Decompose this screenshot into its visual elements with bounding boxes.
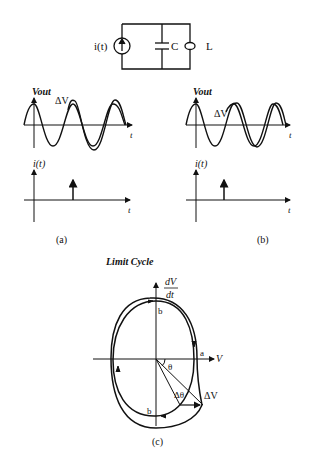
capacitor-label: C: [171, 40, 178, 52]
panel-b-caption: (b): [257, 234, 269, 246]
inductor-label: L: [206, 40, 213, 52]
panel-a-i-label: i(t): [33, 158, 46, 170]
panel-a-i-t-label: t: [128, 205, 131, 215]
panel-a-vout-plot: [24, 98, 132, 150]
panel-b-i-label: i(t): [195, 158, 208, 170]
delta-theta-label: Δθ: [174, 390, 184, 400]
point-a-label: a: [200, 348, 204, 358]
y-axis-denominator: dt: [166, 289, 174, 300]
delta-v-label: ΔV: [204, 390, 218, 401]
panel-b-vout-plot: [186, 98, 290, 148]
panel-a-current-plot: [24, 170, 130, 222]
panel-a-delta-v-label: ΔV: [55, 95, 69, 106]
point-b-bottom-label: b: [147, 406, 152, 416]
point-b-top-label: b: [158, 306, 163, 316]
figure-canvas: i(t) C L Vout ΔV t i(t) t (a) Vout ΔV t …: [0, 0, 310, 454]
panel-a-vout-label: Vout: [32, 86, 52, 97]
panel-b-vout-label: Vout: [193, 86, 213, 97]
panel-a-t-label: t: [130, 130, 133, 140]
limit-cycle-title: Limit Cycle: [105, 256, 154, 267]
panel-a-caption: (a): [56, 234, 67, 246]
theta-label: θ: [168, 362, 172, 372]
panel-c-caption: (c): [152, 436, 163, 448]
panel-b-t-label: t: [289, 130, 292, 140]
panel-b-i-t-label: t: [288, 205, 291, 215]
source-label: i(t): [94, 40, 108, 53]
panel-b-current-plot: [186, 170, 290, 222]
y-axis-numerator: dV: [165, 276, 178, 287]
limit-cycle-plot: [93, 283, 214, 428]
lc-circuit: [114, 24, 197, 69]
x-axis-label: V: [216, 353, 224, 364]
panel-b-delta-v-label: ΔV: [214, 108, 228, 119]
